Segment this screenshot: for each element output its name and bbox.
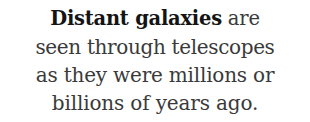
caption-line-1: Distant galaxies are <box>2 5 308 33</box>
caption-line-4: billions of years ago. <box>2 89 308 117</box>
caption-line-2: seen through telescopes <box>2 33 308 61</box>
caption-line-1-rest: are <box>222 7 260 30</box>
caption-screenshot: Distant galaxies are seen through telesc… <box>0 0 310 122</box>
caption-text-block: Distant galaxies are seen through telesc… <box>0 0 310 122</box>
caption-line-3: as they were millions or <box>2 61 308 89</box>
caption-emphasis-phrase: Distant galaxies <box>50 7 222 30</box>
